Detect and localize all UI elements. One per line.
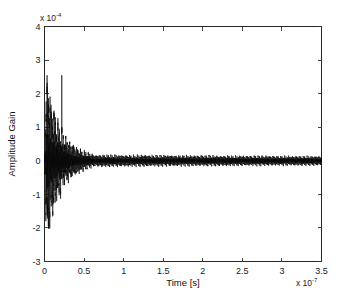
y-axis-exponent: x 10-4 xyxy=(40,12,62,23)
y-tick-label: -1 xyxy=(32,190,40,200)
plot-frame xyxy=(45,27,322,262)
x-axis-exponent: x 10-7 xyxy=(296,277,318,288)
x-axis-ticks xyxy=(45,27,322,262)
y-axis-label: Amplitude Gain xyxy=(6,112,17,177)
x-exponent-power: -7 xyxy=(312,277,318,283)
y-tick-label: 2 xyxy=(35,89,40,99)
y-tick-label: 1 xyxy=(35,122,40,132)
x-axis-tick-labels: 00.511.522.533.5 xyxy=(42,266,328,276)
x-tick-label: 2.5 xyxy=(236,266,249,276)
x-tick-label: 0.5 xyxy=(78,266,91,276)
y-exponent-power: -4 xyxy=(56,12,62,18)
y-tick-label: 4 xyxy=(35,22,40,32)
x-axis-label: Time [s] xyxy=(166,277,199,288)
x-tick-label: 1 xyxy=(121,266,126,276)
x-tick-label: 2 xyxy=(200,266,205,276)
y-axis-ticks xyxy=(45,27,322,262)
x-exponent-base: x 10 xyxy=(296,278,312,288)
signal-trace xyxy=(45,75,322,229)
y-exponent-base: x 10 xyxy=(40,13,56,23)
figure-canvas: 00.511.522.533.5 -3-2-101234 Time [s] Am… xyxy=(0,0,342,302)
y-tick-label: -3 xyxy=(32,257,40,267)
x-tick-label: 1.5 xyxy=(157,266,170,276)
y-tick-label: -2 xyxy=(32,223,40,233)
x-tick-label: 0 xyxy=(42,266,47,276)
y-axis-tick-labels: -3-2-101234 xyxy=(32,22,40,267)
y-tick-label: 3 xyxy=(35,55,40,65)
y-tick-label: 0 xyxy=(35,156,40,166)
x-tick-label: 3.5 xyxy=(315,266,328,276)
chart-plot: 00.511.522.533.5 -3-2-101234 Time [s] Am… xyxy=(0,0,342,302)
x-tick-label: 3 xyxy=(279,266,284,276)
